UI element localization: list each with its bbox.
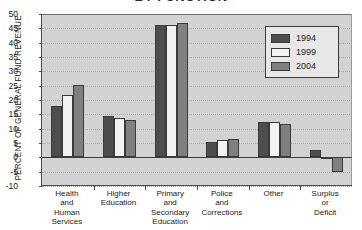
x-axis-category-label: HigherEducation bbox=[93, 189, 145, 208]
bar bbox=[114, 118, 125, 158]
category-label-line: or bbox=[299, 198, 351, 207]
y-axis-tick-label: 10 bbox=[0, 124, 18, 134]
category-label-line: and bbox=[144, 198, 196, 207]
y-axis-tick-label: 25 bbox=[0, 81, 18, 91]
bar bbox=[103, 116, 114, 157]
y-axis-tick-mark bbox=[39, 71, 42, 72]
x-axis-category-label: PrimaryandSecondaryEducation bbox=[144, 189, 196, 227]
legend-item[interactable]: 1999 bbox=[271, 45, 333, 59]
y-axis-tick-label: 5 bbox=[0, 138, 18, 148]
category-label-line: Other bbox=[248, 189, 300, 198]
y-axis-tick-label: 50 bbox=[0, 9, 18, 19]
y-axis-tick-mark bbox=[39, 129, 42, 130]
category-label-line: Education bbox=[93, 198, 145, 207]
y-axis-tick-mark bbox=[39, 43, 42, 44]
bar bbox=[269, 122, 280, 158]
category-label-line: Corrections bbox=[196, 208, 248, 217]
bar bbox=[155, 25, 166, 157]
y-axis-tick-mark bbox=[39, 100, 42, 101]
gridline bbox=[42, 143, 352, 144]
bar bbox=[228, 139, 239, 158]
zero-line bbox=[42, 157, 352, 158]
legend-label: 1999 bbox=[296, 47, 316, 57]
bar bbox=[332, 157, 343, 171]
chart-figure: BY FUNCTION PERCENT OF GENERAL FUND REVE… bbox=[0, 0, 362, 230]
bar bbox=[73, 85, 84, 158]
y-axis-tick-label: -10 bbox=[0, 181, 18, 191]
legend-swatch-2004-icon bbox=[271, 62, 290, 71]
x-axis-category-label: Other bbox=[248, 189, 300, 198]
y-axis-tick-label: 0 bbox=[0, 152, 18, 162]
y-axis-tick-mark bbox=[39, 143, 42, 144]
x-axis-category-label: SurplusorDeficit bbox=[299, 189, 351, 217]
legend-label: 1994 bbox=[296, 33, 316, 43]
legend-item[interactable]: 2004 bbox=[271, 59, 333, 73]
category-label-line: Surplus bbox=[299, 189, 351, 198]
bar bbox=[62, 95, 73, 157]
legend-item[interactable]: 1994 bbox=[271, 31, 333, 45]
gridline bbox=[42, 114, 352, 115]
category-label-line: and bbox=[41, 198, 93, 207]
y-axis-tick-mark bbox=[39, 86, 42, 87]
category-label-line: Primary bbox=[144, 189, 196, 198]
category-label-line: Health bbox=[41, 189, 93, 198]
bar bbox=[280, 124, 291, 158]
category-label-line: Secondary bbox=[144, 208, 196, 217]
legend-swatch-1999-icon bbox=[271, 48, 290, 57]
y-axis-tick-mark bbox=[39, 57, 42, 58]
bar bbox=[258, 122, 269, 157]
legend-label: 2004 bbox=[296, 61, 316, 71]
x-axis-category-label: PoliceandCorrections bbox=[196, 189, 248, 217]
bar bbox=[125, 120, 136, 157]
y-axis-tick-mark bbox=[39, 172, 42, 173]
y-axis-tick-mark bbox=[39, 114, 42, 115]
y-axis-tick-label: 45 bbox=[0, 23, 18, 33]
y-axis-tick-label: -5 bbox=[0, 167, 18, 177]
category-label-line: and bbox=[196, 198, 248, 207]
y-axis-tick-mark bbox=[39, 28, 42, 29]
bar bbox=[166, 25, 177, 157]
category-label-line: Services bbox=[41, 217, 93, 226]
plot-right-border bbox=[351, 14, 352, 186]
gridline bbox=[42, 129, 352, 130]
y-axis-tick-label: 15 bbox=[0, 109, 18, 119]
bar bbox=[206, 142, 217, 157]
y-axis-tick-label: 30 bbox=[0, 66, 18, 76]
legend-swatch-1994-icon bbox=[271, 34, 290, 43]
bar bbox=[177, 23, 188, 158]
gridline bbox=[42, 86, 352, 87]
y-axis-tick-mark bbox=[39, 14, 42, 15]
category-label-line: Higher bbox=[93, 189, 145, 198]
category-label-line: Police bbox=[196, 189, 248, 198]
legend: 1994 1999 2004 bbox=[265, 26, 339, 78]
bar bbox=[217, 140, 228, 157]
y-axis-tick-label: 35 bbox=[0, 52, 18, 62]
category-label-line: Human bbox=[41, 208, 93, 217]
x-axis-category-label: HealthandHumanServices bbox=[41, 189, 93, 227]
y-axis-tick-mark bbox=[39, 186, 42, 187]
bar bbox=[310, 150, 321, 157]
plot-top-border bbox=[42, 14, 352, 15]
y-axis-tick-label: 40 bbox=[0, 38, 18, 48]
y-axis-tick-mark bbox=[39, 157, 42, 158]
category-label-line: Education bbox=[144, 217, 196, 226]
gridline bbox=[42, 172, 352, 173]
y-axis-tick-label: 20 bbox=[0, 95, 18, 105]
chart-title: BY FUNCTION bbox=[0, 0, 362, 4]
bar bbox=[51, 106, 62, 158]
gridline bbox=[42, 100, 352, 101]
category-label-line: Deficit bbox=[299, 208, 351, 217]
